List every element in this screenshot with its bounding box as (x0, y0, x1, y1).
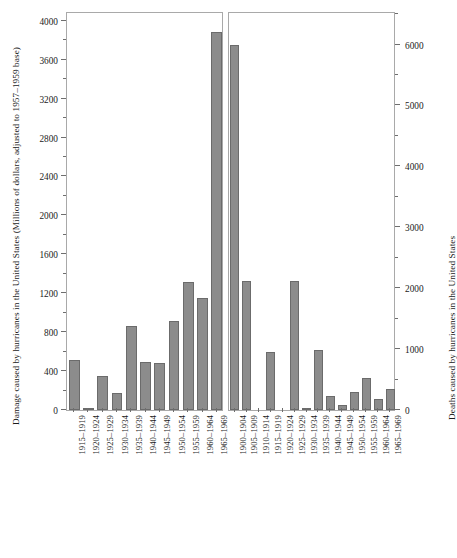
x-axis-tick-label: 1940–1944 (148, 415, 158, 455)
x-axis-tick-label: 1915–1919 (273, 415, 283, 455)
x-axis-tick (87, 408, 88, 412)
deaths-x-axis-tick-labels: 1900–19041905–19091910–19141915–19191920… (228, 413, 395, 553)
bar (302, 408, 311, 410)
bar (290, 281, 299, 410)
y-axis-tick-label: 3000 (405, 223, 424, 233)
bar (97, 376, 108, 410)
y-axis-tick (63, 195, 66, 196)
x-axis-tick-label: 1905–1909 (249, 415, 259, 455)
x-axis-tick-label: 1915–1919 (77, 415, 87, 455)
x-axis-tick (353, 408, 354, 412)
x-axis-tick-label: 1935–1939 (321, 415, 331, 455)
x-axis-tick (389, 408, 390, 412)
x-axis-tick-label: 1960–1964 (381, 415, 391, 455)
y-axis-tick-label: 1200 (39, 289, 58, 299)
y-axis-tick-label: 2000 (39, 211, 58, 221)
y-axis-tick-label: 2000 (405, 284, 424, 294)
bar (338, 405, 347, 410)
y-axis-tick (61, 214, 66, 215)
x-axis-tick-label: 1920–1924 (285, 415, 295, 455)
y-axis-tick-label: 4000 (39, 17, 58, 27)
damage-x-axis-tick-labels: 1915–19191920–19241925–19291930–19341935… (66, 413, 223, 553)
x-axis-tick (202, 408, 203, 412)
x-axis-tick (329, 408, 330, 412)
y-axis-tick-label: 4000 (405, 162, 424, 172)
x-axis-tick (294, 408, 295, 412)
x-axis-tick-label: 1910–1914 (261, 415, 271, 455)
y-axis-tick (61, 98, 66, 99)
x-axis-tick-label: 1960–1964 (205, 415, 215, 455)
x-axis-tick-label: 1930–1934 (309, 415, 319, 455)
x-axis-tick (145, 408, 146, 412)
x-axis-tick (306, 408, 307, 412)
bar (211, 32, 222, 410)
x-axis-tick-label: 1925–1929 (297, 415, 307, 455)
y-axis-tick (61, 292, 66, 293)
right-y-axis-title: Deaths caused by hurricanes in the Unite… (447, 236, 457, 420)
y-axis-tick (61, 409, 66, 410)
bar (314, 350, 323, 410)
x-axis-tick (234, 408, 235, 412)
y-axis-tick (63, 39, 66, 40)
x-axis-tick (317, 408, 318, 412)
x-axis-tick (258, 408, 259, 412)
x-axis-tick-label: 1935–1939 (134, 415, 144, 455)
y-axis-tick (61, 137, 66, 138)
y-axis-tick (63, 117, 66, 118)
x-axis-tick-label: 1950–1954 (357, 415, 367, 455)
y-axis-tick (63, 78, 66, 79)
y-axis-tick (61, 370, 66, 371)
deaths-panel (228, 12, 395, 411)
bar (326, 396, 335, 410)
bar (169, 321, 180, 410)
x-axis-tick (341, 408, 342, 412)
bar (183, 282, 194, 410)
bar (230, 45, 239, 410)
bar (242, 281, 251, 410)
y-axis-tick (61, 331, 66, 332)
bar (362, 378, 371, 410)
right-y-axis-tick-labels: 0100020003000400050006000 (396, 0, 430, 558)
y-axis-tick-label: 1000 (405, 345, 424, 355)
y-axis-tick (61, 175, 66, 176)
damage-panel (66, 12, 223, 411)
y-axis-tick (63, 273, 66, 274)
x-axis-tick-label: 1950–1954 (177, 415, 187, 455)
y-axis-tick-label: 3600 (39, 56, 58, 66)
y-axis-tick (63, 234, 66, 235)
bar (197, 298, 208, 410)
x-axis-tick (102, 408, 103, 412)
y-axis-tick (63, 351, 66, 352)
y-axis-tick-label: 0 (53, 406, 58, 416)
left-y-axis-title: Damage caused by hurricanes in the Unite… (11, 47, 21, 425)
x-axis-tick (377, 408, 378, 412)
y-axis-tick (61, 59, 66, 60)
y-axis-tick (63, 312, 66, 313)
y-axis-tick (61, 20, 66, 21)
y-axis-tick (63, 156, 66, 157)
damage-bar-group (67, 13, 222, 410)
y-axis-tick-label: 0 (405, 406, 410, 416)
y-axis-tick-label: 3200 (39, 95, 58, 105)
x-axis-tick (246, 408, 247, 412)
x-axis-tick (282, 408, 283, 412)
y-axis-tick-label: 1600 (39, 250, 58, 260)
x-axis-tick-label: 1930–1934 (120, 415, 130, 455)
y-axis-tick-label: 6000 (405, 41, 424, 51)
x-axis-tick (130, 408, 131, 412)
bar (374, 399, 383, 410)
x-axis-tick-label: 1925–1929 (105, 415, 115, 455)
left-y-axis-tick-labels: 040080012001600200024002800320036004000 (29, 0, 63, 558)
x-axis-tick (187, 408, 188, 412)
x-axis-tick-label: 1900–1904 (238, 415, 248, 455)
bar (140, 362, 151, 410)
x-axis-tick-label: 1955–1959 (369, 415, 379, 455)
y-axis-tick (63, 390, 66, 391)
x-axis-tick (116, 408, 117, 412)
y-axis-tick-label: 800 (44, 328, 58, 338)
y-axis-tick-label: 400 (44, 367, 58, 377)
bar (126, 326, 137, 410)
x-axis-tick-label: 1940–1944 (333, 415, 343, 455)
x-axis-tick (73, 408, 74, 412)
x-axis-tick-label: 1920–1924 (91, 415, 101, 455)
